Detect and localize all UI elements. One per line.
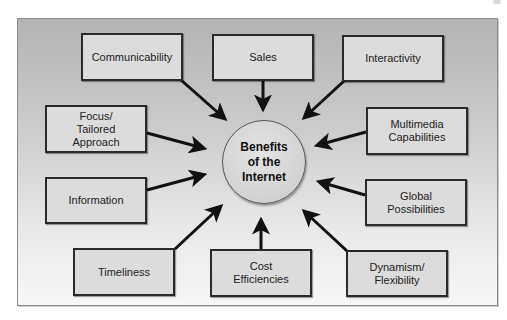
node-label: Multimedia Capabilities: [389, 118, 446, 144]
hub-label: Benefits of the Internet: [240, 140, 287, 185]
node-timeliness: Timeliness: [73, 248, 175, 296]
node-label: Timeliness: [98, 266, 150, 279]
center-hub: Benefits of the Internet: [222, 120, 306, 204]
node-communicability: Communicability: [81, 33, 183, 81]
node-multimedia-capabilities: Multimedia Capabilities: [366, 107, 468, 155]
node-label: Interactivity: [365, 52, 421, 65]
node-global-possibilities: Global Possibilities: [365, 179, 467, 226]
node-label: Global Possibilities: [387, 190, 444, 216]
node-information: Information: [45, 177, 147, 224]
node-label: Communicability: [92, 51, 173, 64]
node-label: Information: [68, 194, 123, 207]
node-label: Cost Efficiencies: [233, 260, 288, 286]
node-focus-tailored-approach: Focus/ Tailored Approach: [45, 105, 147, 153]
page-corner-mark: [493, 0, 501, 4]
node-label: Focus/ Tailored Approach: [72, 110, 119, 149]
node-label: Sales: [249, 51, 277, 64]
node-interactivity: Interactivity: [342, 35, 444, 82]
node-cost-efficiencies: Cost Efficiencies: [210, 249, 312, 297]
node-dynamism-flexibility: Dynamism/ Flexibility: [346, 250, 448, 297]
node-label: Dynamism/ Flexibility: [369, 261, 424, 287]
node-sales: Sales: [212, 34, 314, 81]
